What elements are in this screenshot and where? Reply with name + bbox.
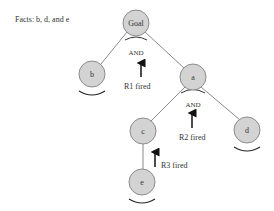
rule-r3-label: R3 fired [161,161,187,170]
and-label-a: AND [185,101,200,109]
and-label-goal: AND [128,49,143,57]
fact-arc-e [129,199,155,203]
node-d-label: d [245,126,249,135]
rule-r2-label: R2 fired [179,133,205,142]
node-goal-label: Goal [128,19,144,28]
edge-goal-a [145,32,184,68]
node-e-label: e [140,178,144,187]
and-or-tree-diagram: Goal b a c d e AND AND R1 fired R2 fired… [0,0,274,211]
edge-a-d [201,87,240,120]
edges [101,32,240,169]
node-goal: Goal [123,10,149,36]
edge-a-c [151,87,185,121]
fact-arc-b [79,91,105,95]
node-a-label: a [191,73,195,82]
node-a: a [180,64,206,90]
edge-goal-b [101,32,127,64]
node-b: b [79,61,105,87]
node-e: e [129,169,155,195]
fact-arc-d [234,147,260,151]
node-d: d [234,117,260,143]
rule-r1-label: R1 fired [124,82,150,91]
node-c-label: c [141,127,145,136]
node-c: c [130,118,156,144]
and-arc-goal [125,37,147,40]
facts-label: Facts: b, d, and e [15,15,70,24]
node-b-label: b [90,70,94,79]
